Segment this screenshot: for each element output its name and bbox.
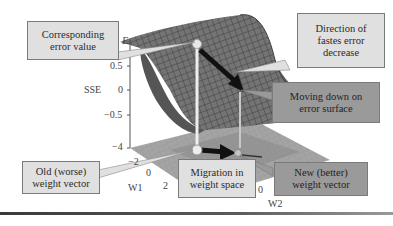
callout-old-weight-vector: Old (worse) weight vector — [22, 161, 100, 194]
w1-axis-title: W1 — [128, 182, 142, 193]
callout-new-weight-vector: New (better) weight vector — [274, 162, 368, 196]
callout-corresponding-error: Corresponding error value — [27, 21, 119, 60]
error-surface-diagram: E 0.5 0 SSE −0.5 −4 −2 0 2 W1 0 W2 Corre… — [0, 0, 393, 226]
w2-axis-title: W2 — [268, 198, 282, 209]
old-weight-marker — [192, 145, 202, 155]
z-axis-symbol: E — [122, 35, 128, 46]
w1-tick-0: 0 — [146, 167, 151, 178]
z-tick-0: 0 — [118, 84, 123, 95]
z-tick-neg0.5: −0.5 — [104, 109, 122, 120]
w2-tick-0: 0 — [258, 184, 263, 195]
callout-direction-fastest-decrease: Direction of fastes error decrease — [297, 13, 385, 68]
w1-tick-neg2: −2 — [128, 156, 139, 167]
z-axis-title: SSE — [84, 84, 101, 95]
z-tick-neg4: −4 — [112, 141, 123, 152]
new-weight-marker — [235, 150, 242, 157]
callout-migration-weight-space: Migration in weight space — [178, 159, 256, 198]
bottom-divider — [0, 212, 393, 215]
error-value-marker — [193, 40, 202, 49]
z-tick-0.5: 0.5 — [110, 60, 123, 71]
w1-tick-2: 2 — [163, 180, 168, 191]
callout-moving-down: Moving down on error surface — [272, 82, 380, 123]
